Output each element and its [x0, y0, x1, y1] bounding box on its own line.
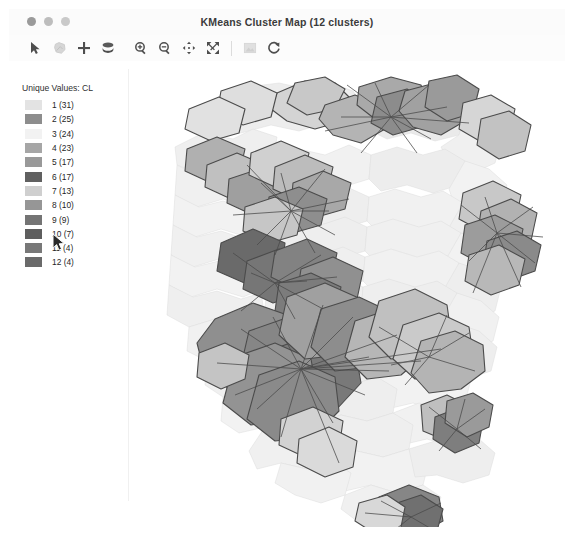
- map-toolbar: [9, 35, 565, 61]
- zoom-button[interactable]: [61, 17, 70, 26]
- arrow-pointer-icon: [29, 41, 42, 55]
- legend-swatch-3[interactable]: [25, 129, 42, 139]
- legend-label-9: 9 (9): [52, 215, 69, 225]
- refresh-circular-arrow-icon: [267, 41, 281, 55]
- legend-swatch-6[interactable]: [25, 172, 42, 182]
- toolbar-separator: [231, 41, 232, 56]
- legend-item-4[interactable]: 4 (23): [22, 141, 126, 155]
- legend-item-5[interactable]: 5 (17): [22, 155, 126, 169]
- legend-label-6: 6 (17): [52, 172, 74, 182]
- window-controls: [27, 17, 70, 26]
- image-save-icon: [243, 41, 257, 55]
- legend-panel: Unique Values: CL 1 (31) 2 (25) 3 (24) 4…: [22, 83, 126, 270]
- window-titlebar: KMeans Cluster Map (12 clusters): [9, 9, 565, 35]
- select-pointer-tool[interactable]: [25, 38, 46, 59]
- legend-label-8: 8 (10): [52, 200, 74, 210]
- legend-swatch-11[interactable]: [25, 243, 42, 253]
- region-select-tool[interactable]: [49, 38, 70, 59]
- kmeans-cluster-choropleth[interactable]: [129, 65, 565, 527]
- screenshot-root: KMeans Cluster Map (12 clusters): [0, 0, 575, 535]
- legend-label-11: 11 (4): [52, 243, 73, 253]
- plus-icon: [77, 41, 91, 55]
- magnifier-plus-icon: [134, 41, 148, 55]
- legend-item-12[interactable]: 12 (4): [22, 255, 126, 269]
- legend-swatch-12[interactable]: [25, 257, 42, 267]
- legend-label-2: 2 (25): [52, 114, 74, 124]
- add-point-tool[interactable]: [73, 38, 94, 59]
- layers-tool[interactable]: [97, 38, 118, 59]
- legend-label-10: 10 (7): [52, 229, 74, 239]
- magnifier-minus-icon: [158, 41, 172, 55]
- legend-swatch-4[interactable]: [25, 143, 42, 153]
- legend-swatch-10[interactable]: [25, 229, 42, 239]
- legend-item-8[interactable]: 8 (10): [22, 198, 126, 212]
- expand-arrows-icon: [206, 41, 220, 55]
- zoom-extent-tool[interactable]: [202, 38, 223, 59]
- legend-label-7: 7 (13): [52, 186, 74, 196]
- pan-arrows-icon: [182, 41, 196, 55]
- zoom-in-tool[interactable]: [130, 38, 151, 59]
- legend-item-11[interactable]: 11 (4): [22, 241, 126, 255]
- application-window: KMeans Cluster Map (12 clusters): [9, 9, 565, 527]
- polygon-lasso-icon: [53, 41, 67, 55]
- save-image-tool[interactable]: [239, 38, 260, 59]
- legend-label-1: 1 (31): [52, 100, 74, 110]
- pan-tool[interactable]: [178, 38, 199, 59]
- window-title: KMeans Cluster Map (12 clusters): [9, 16, 565, 28]
- minimize-button[interactable]: [44, 17, 53, 26]
- legend-label-5: 5 (17): [52, 157, 74, 167]
- close-button[interactable]: [27, 17, 36, 26]
- legend-title: Unique Values: CL: [22, 83, 126, 93]
- legend-item-10[interactable]: 10 (7): [22, 227, 126, 241]
- legend-item-9[interactable]: 9 (9): [22, 212, 126, 226]
- legend-item-3[interactable]: 3 (24): [22, 127, 126, 141]
- refresh-tool[interactable]: [263, 38, 284, 59]
- map-svg: [129, 65, 565, 527]
- legend-item-1[interactable]: 1 (31): [22, 98, 126, 112]
- legend-label-12: 12 (4): [52, 257, 74, 267]
- legend-item-2[interactable]: 2 (25): [22, 112, 126, 126]
- legend-swatch-1[interactable]: [25, 100, 42, 110]
- layers-stack-icon: [101, 41, 115, 55]
- legend-item-7[interactable]: 7 (13): [22, 184, 126, 198]
- window-body: Unique Values: CL 1 (31) 2 (25) 3 (24) 4…: [9, 65, 565, 527]
- legend-label-4: 4 (23): [52, 143, 74, 153]
- legend-label-3: 3 (24): [52, 129, 74, 139]
- legend-swatch-7[interactable]: [25, 186, 42, 196]
- legend-item-6[interactable]: 6 (17): [22, 169, 126, 183]
- legend-swatch-9[interactable]: [25, 215, 42, 225]
- legend-swatch-8[interactable]: [25, 200, 42, 210]
- legend-swatch-5[interactable]: [25, 157, 42, 167]
- zoom-out-tool[interactable]: [154, 38, 175, 59]
- legend-swatch-2[interactable]: [25, 114, 42, 124]
